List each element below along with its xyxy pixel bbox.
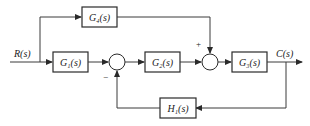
block-g4: G₄(s) bbox=[82, 7, 117, 27]
sum2-plus-sign: + bbox=[196, 39, 201, 49]
input-label: R(s) bbox=[13, 48, 31, 60]
block-g1-label: G₁(s) bbox=[60, 57, 82, 69]
summing-junction-2 bbox=[202, 54, 218, 70]
block-h1: H₁(s) bbox=[160, 98, 196, 118]
sum1-minus-sign: − bbox=[103, 72, 108, 82]
h1-output-wire bbox=[117, 71, 160, 108]
block-g2: G₂(s) bbox=[145, 52, 180, 72]
block-h1-label: H₁(s) bbox=[166, 103, 189, 115]
block-g1: G₁(s) bbox=[53, 52, 88, 72]
summing-junction-1 bbox=[109, 54, 125, 70]
block-diagram: R(s) G₄(s) + G₁(s) − G₂(s) G₃(s) C(s) bbox=[0, 0, 310, 126]
block-diagram-canvas: R(s) G₄(s) + G₁(s) − G₂(s) G₃(s) C(s) bbox=[0, 0, 310, 126]
block-g4-label: G₄(s) bbox=[89, 12, 111, 24]
output-label: C(s) bbox=[276, 48, 294, 60]
block-g2-label: G₂(s) bbox=[152, 57, 174, 69]
block-g3-label: G₃(s) bbox=[239, 57, 261, 69]
block-g3: G₃(s) bbox=[232, 52, 267, 72]
